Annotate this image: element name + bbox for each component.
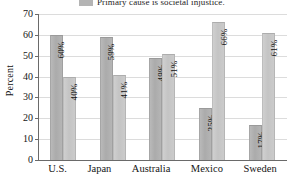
bar-value-label: 41%	[119, 81, 130, 98]
y-tick-label-60: 60	[9, 30, 33, 40]
bar-group-us: 60% 40%	[50, 14, 76, 160]
bar-value-label: 51%	[169, 60, 180, 77]
bar-group-japan: 59% 41%	[100, 14, 126, 160]
bar-value-label: 61%	[269, 39, 280, 56]
legend-swatch-icon	[79, 0, 93, 6]
y-tick-label-30: 30	[9, 92, 33, 102]
bar-japan-series0[interactable]: 59%	[100, 37, 113, 160]
bar-mexico-series1[interactable]: 66%	[212, 22, 225, 160]
y-tick-label-10: 10	[9, 134, 33, 144]
x-label-us: U.S.	[48, 163, 67, 175]
x-label-sweden: Sweden	[243, 163, 276, 175]
y-tick-label-20: 20	[9, 113, 33, 123]
bar-groups: 60% 40% 59% 41% 49% 51% 25%	[38, 14, 287, 160]
bar-japan-series1[interactable]: 41%	[113, 75, 126, 161]
bar-value-label: 60%	[56, 41, 67, 58]
bar-group-mexico: 25% 66%	[199, 14, 225, 160]
legend-label: Primary cause is societal injustice.	[97, 0, 225, 7]
bar-value-label: 59%	[106, 43, 117, 60]
x-label-australia: Australia	[132, 163, 171, 175]
bar-group-sweden: 17% 61%	[249, 14, 275, 160]
bar-australia-series0[interactable]: 49%	[149, 58, 162, 160]
y-tick-label-0: 0	[9, 155, 33, 165]
bar-value-label: 66%	[219, 29, 230, 46]
x-label-japan: Japan	[87, 163, 111, 175]
x-label-mexico: Mexico	[191, 163, 223, 175]
bar-value-label: 40%	[69, 83, 80, 100]
chart-legend: Primary cause is societal injustice.	[79, 0, 225, 8]
bar-sweden-series1[interactable]: 61%	[262, 33, 275, 160]
bar-mexico-series0[interactable]: 25%	[199, 108, 212, 160]
bar-us-series1[interactable]: 40%	[63, 77, 76, 160]
y-tick-label-50: 50	[9, 51, 33, 61]
bar-sweden-series0[interactable]: 17%	[249, 125, 262, 161]
x-axis-line	[38, 160, 287, 161]
bar-australia-series1[interactable]: 51%	[162, 54, 175, 160]
bar-us-series0[interactable]: 60%	[50, 35, 63, 160]
y-tick-label-40: 40	[9, 72, 33, 82]
bar-group-australia: 49% 51%	[149, 14, 175, 160]
x-axis-labels: U.S. Japan Australia Mexico Sweden	[38, 163, 287, 175]
y-tick-label-70: 70	[9, 9, 33, 19]
chart-figure: Primary cause is societal injustice. Per…	[0, 0, 294, 181]
